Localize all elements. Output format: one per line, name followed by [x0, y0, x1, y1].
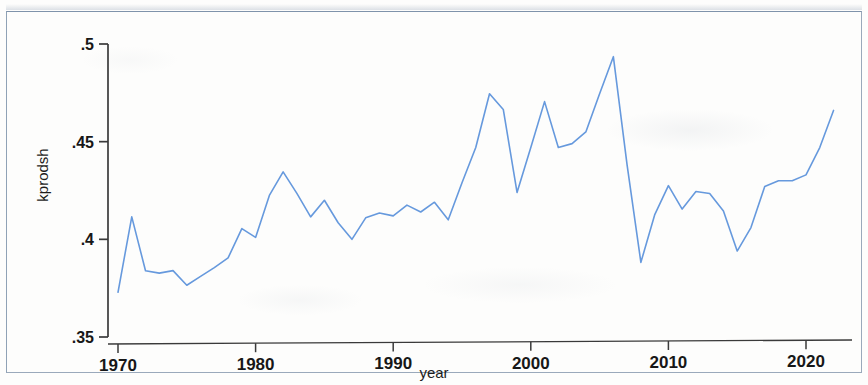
y-tick-label: .35	[72, 329, 94, 346]
line-chart-plot: .35.4.45.5197019801990200020102020	[0, 0, 868, 385]
y-tick-label: .45	[72, 134, 94, 151]
figure-root: .35.4.45.5197019801990200020102020 kprod…	[0, 0, 868, 385]
y-tick-label: .4	[81, 231, 94, 248]
x-axis-label: year	[0, 364, 868, 381]
x-axis-line	[108, 340, 852, 344]
data-series-line	[118, 57, 834, 293]
y-tick-label: .5	[81, 36, 94, 53]
y-axis-label: kprodsh	[34, 135, 51, 215]
